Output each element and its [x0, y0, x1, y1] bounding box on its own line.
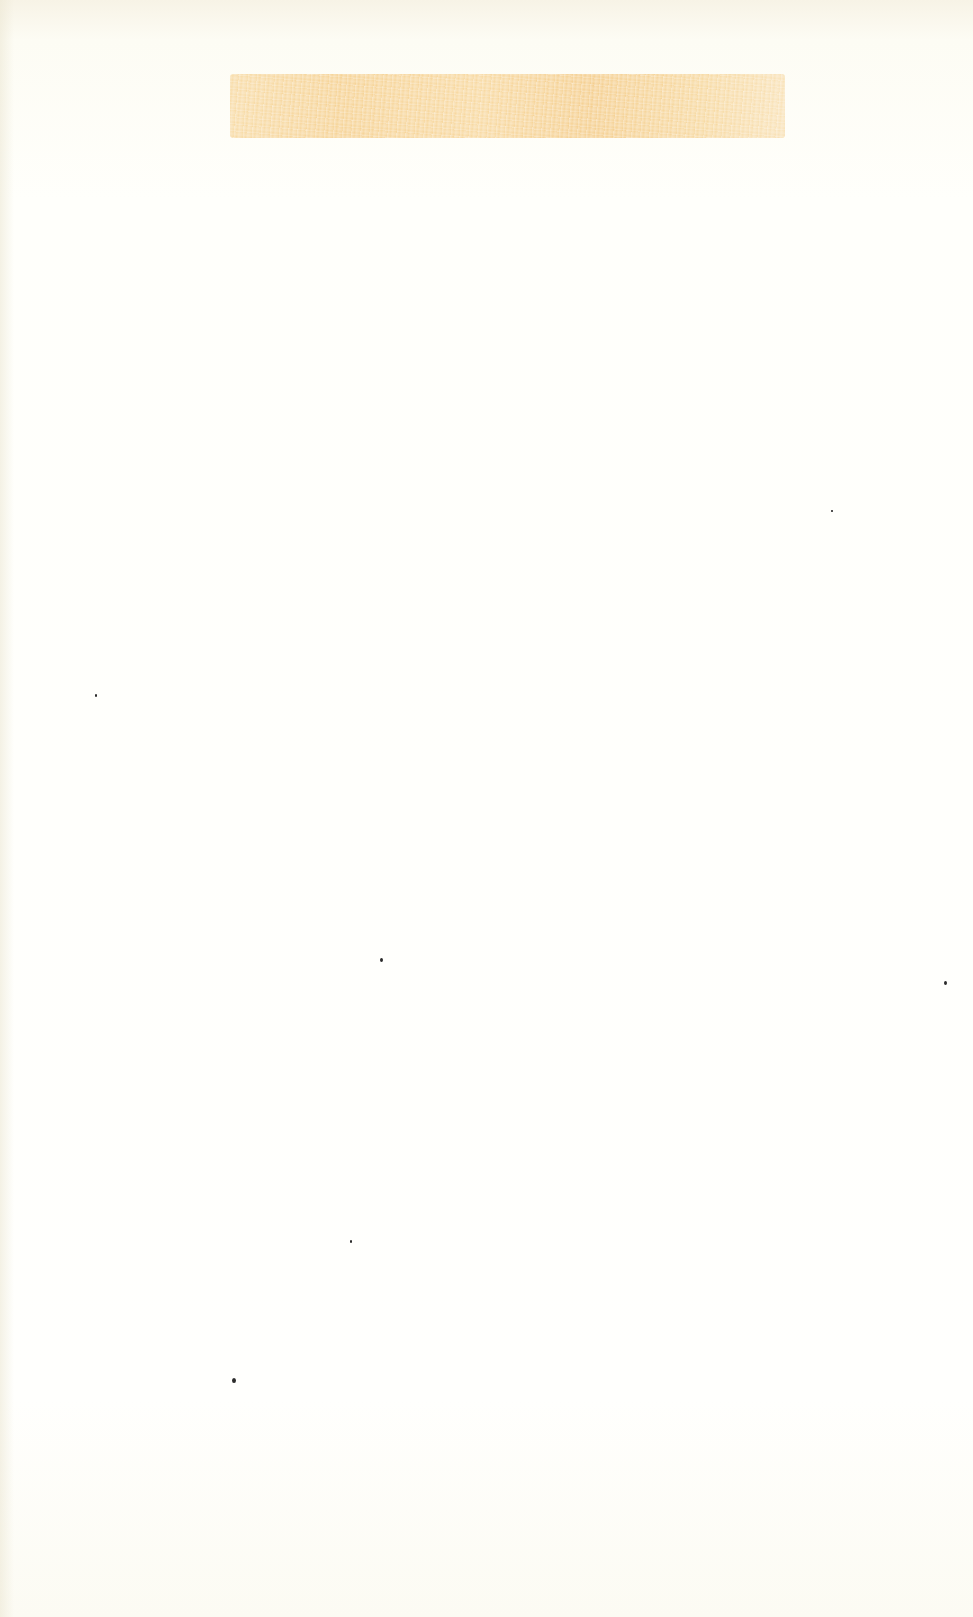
orange-crayon-highlight-band: [230, 74, 785, 138]
dust-speck: [95, 694, 97, 697]
paper-edge-shadow: [0, 0, 14, 1617]
paper-sheet: [0, 0, 973, 1617]
dust-speck: [831, 510, 833, 512]
dust-speck: [232, 1378, 236, 1383]
dust-speck: [380, 958, 383, 962]
dust-speck: [944, 981, 947, 985]
dust-speck: [350, 1240, 352, 1243]
